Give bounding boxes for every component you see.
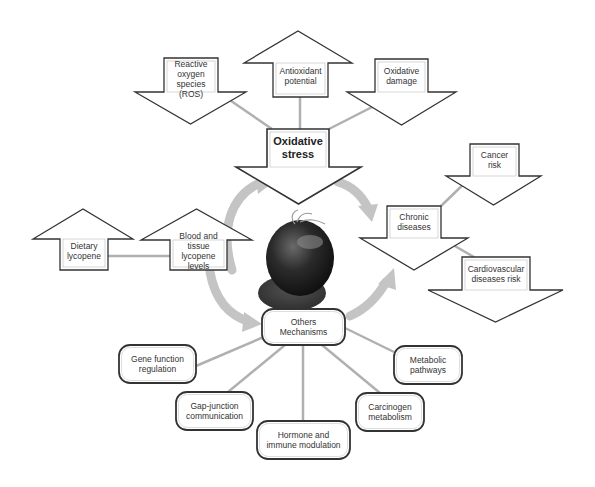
connector-line <box>228 345 285 392</box>
label-others-mechanisms: Others Mechanisms <box>262 309 345 345</box>
label-cardiovascular: Cardiovascular diseases risk <box>462 257 530 290</box>
label-gene-function: Gene function regulation <box>119 345 196 383</box>
label-ros: Reactive oxygen species (ROS) <box>164 58 218 100</box>
cycle-arrow-top-right <box>338 182 368 208</box>
cycle-arrow-head-top-right <box>358 204 378 222</box>
label-carcinogen: Carcinogen metabolism <box>356 393 424 431</box>
label-gap-junction: Gap-junction communication <box>176 392 253 430</box>
label-chronic-diseases: Chronic diseases <box>387 206 441 238</box>
label-antioxidant: Antioxidant potential <box>273 55 328 97</box>
label-blood-tissue: Blood and tissue lycopene levels <box>170 232 227 270</box>
tomato-image <box>258 210 334 311</box>
label-cancer-risk: Cancer risk <box>470 144 519 176</box>
cycle-arrow-top-left <box>227 182 262 270</box>
cycle-arrow-bottom-right <box>350 282 386 316</box>
label-hormone-immune: Hormone and immune modulation <box>257 421 350 459</box>
label-dietary-lycopene: Dietary lycopene <box>60 231 108 270</box>
label-oxidative-damage: Oxidative damage <box>375 59 428 92</box>
label-metabolic: Metabolic pathways <box>394 346 462 384</box>
connector-line <box>322 345 380 393</box>
cycle-arrow-head-bottom-left <box>242 312 262 332</box>
connector-line <box>345 328 394 352</box>
label-oxidative-stress: Oxidative stress <box>267 129 329 167</box>
